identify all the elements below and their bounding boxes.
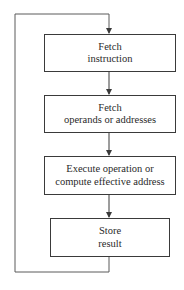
step-fetch-instruction: Fetch instruction [44,34,176,72]
step-label-line1: Execute operation or [55,163,164,176]
step-label-line2: operands or addresses [64,114,156,127]
step-label-line2: result [98,238,121,251]
step-store: Store result [50,218,170,257]
step-fetch-operands: Fetch operands or addresses [44,95,176,133]
step-label-line2: compute effective address [55,176,164,189]
step-label-line1: Fetch [88,41,133,54]
step-execute: Execute operation or compute effective a… [44,156,176,195]
step-label-line1: Store [98,225,121,238]
step-label-line2: instruction [88,53,133,66]
step-label-line1: Fetch [64,102,156,115]
